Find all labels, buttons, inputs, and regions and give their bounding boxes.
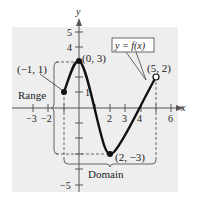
x-tick-label: 3: [122, 113, 127, 124]
x-tick-label: 2: [107, 113, 112, 124]
y-tick-label: 5: [67, 27, 72, 38]
y-tick-label: −5: [60, 180, 71, 191]
y-tick-label: 4: [67, 42, 72, 53]
point-label: (−1, 1): [17, 63, 47, 76]
y-axis-label: y: [75, 6, 81, 17]
range-label: Range: [18, 89, 46, 101]
x-tick-label: −2: [41, 113, 52, 124]
x-tick-label: 4: [137, 113, 142, 124]
x-tick-label: −3: [26, 113, 37, 124]
point-label: (5, 2): [147, 62, 171, 75]
y-axis-arrow-icon: [76, 18, 82, 26]
closed-point-icon: [107, 151, 113, 157]
open-point-icon: [153, 74, 159, 80]
point-label: (0, 3): [82, 52, 106, 65]
function-label: y = f(x): [114, 40, 146, 52]
point-label: (2, −3): [115, 151, 145, 164]
x-tick-label: 6: [168, 113, 173, 124]
x-axis-label: x: [180, 102, 186, 113]
function-graph: x y −3 −2 2 3 4 6 5 4 1 −5 (−1, 1) (0, 3…: [0, 0, 202, 199]
domain-label: Domain: [88, 168, 124, 180]
